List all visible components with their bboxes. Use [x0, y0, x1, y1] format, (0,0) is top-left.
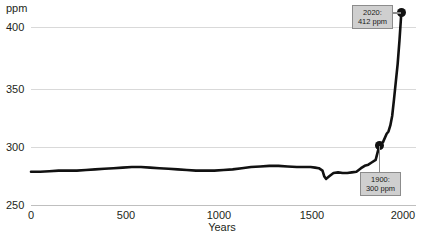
co2-line-chart: ppm 400 350 300 250 2020: 412 ppm 1900: … — [0, 0, 423, 235]
annotation-leader-1900 — [379, 146, 381, 172]
annotation-leader-2020 — [393, 12, 401, 14]
annotation-2020-line2: 412 ppm — [356, 17, 389, 26]
x-tick-0: 0 — [9, 210, 53, 221]
x-axis-title: Years — [182, 222, 262, 233]
annotation-1900: 1900: 300 ppm — [360, 172, 401, 196]
annotation-1900-line2: 300 ppm — [364, 184, 397, 193]
x-tick-1500: 1500 — [290, 210, 334, 221]
x-tick-1000: 1000 — [197, 210, 241, 221]
series-polyline — [31, 13, 401, 179]
series-curve-svg — [0, 0, 423, 235]
annotation-2020: 2020: 412 ppm — [352, 5, 393, 29]
x-tick-2000: 2000 — [381, 210, 423, 221]
annotation-1900-line1: 1900: — [364, 175, 397, 184]
annotation-2020-line1: 2020: — [356, 8, 389, 17]
x-tick-500: 500 — [104, 210, 148, 221]
